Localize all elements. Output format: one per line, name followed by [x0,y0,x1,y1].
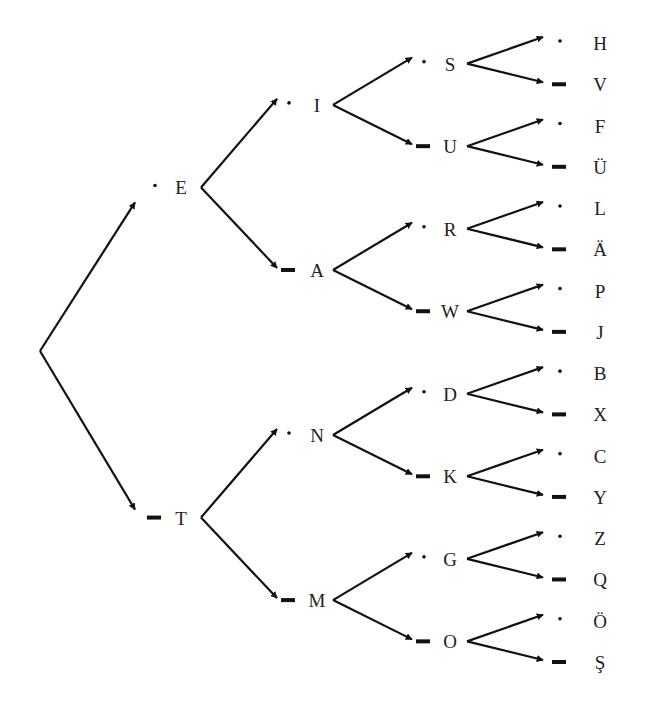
letter-label: J [596,322,603,343]
arrow-R-to-Ä [467,229,543,248]
letter-label: Q [593,569,607,590]
dash-mark [416,309,430,313]
node-o: O [416,631,457,652]
dash-mark [147,516,161,520]
node-n: N [287,425,324,446]
dot-mark [287,431,291,435]
letter-label: L [594,198,606,219]
node-h: H [558,33,607,54]
letter-label: C [594,446,607,467]
arrow-W-to-J [467,311,543,330]
node-b: B [558,363,606,384]
dot-mark [558,287,562,291]
node-p: P [558,281,605,302]
letter-label: Ä [593,239,607,260]
arrow-E-to-A [201,187,277,268]
letter-label: M [309,590,326,611]
dot-mark [558,369,562,373]
arrow-N-to-D [333,388,412,435]
letter-label: D [443,384,457,405]
node-w: W [416,301,459,322]
dash-mark [416,639,430,643]
dash-mark [552,165,566,169]
arrow-S-to-H [467,37,543,64]
arrow-U-to-F [467,120,543,147]
dash-mark [552,577,566,581]
arrow-root-to-T [40,351,135,510]
dash-mark [281,598,295,602]
dot-mark [422,555,426,559]
dot-mark [422,60,426,64]
letter-label: A [310,260,324,281]
arrow-D-to-B [467,367,543,394]
arrow-U-to-Ü [467,146,543,165]
node-v: V [552,74,607,95]
arrow-M-to-G [333,553,412,600]
dash-mark [552,412,566,416]
node-m: M [281,590,326,611]
node-i: I [287,95,320,116]
node-f: F [558,116,605,137]
arrow-A-to-R [333,223,412,270]
node-s-cedilla: Ş [552,652,605,673]
dash-mark [552,82,566,86]
arrow-K-to-Y [467,476,543,495]
node-l: L [558,198,606,219]
letter-label: N [310,425,324,446]
node-g: G [422,549,457,570]
node-u-umlaut: Ü [552,157,607,178]
arrow-O-to-Ö [467,615,543,642]
arrow-D-to-X [467,394,543,413]
node-q: Q [552,569,607,590]
letter-label: H [593,33,607,54]
node-x: X [552,404,607,425]
arrow-N-to-K [333,435,412,474]
letter-label: K [443,466,457,487]
dot-mark [558,617,562,621]
node-t: T [147,508,187,529]
node-e: E [153,177,187,198]
letter-label: W [441,301,459,322]
letter-label: Ö [593,611,607,632]
letter-label: O [443,631,457,652]
node-j: J [552,322,604,343]
arrow-A-to-W [333,270,412,309]
node-s: S [422,54,455,75]
arrow-G-to-Z [467,532,543,559]
arrow-O-to-Ş [467,641,543,660]
dot-mark [558,39,562,43]
arrow-root-to-E [40,202,135,351]
letter-label: B [594,363,607,384]
letter-label: X [593,404,607,425]
letter-label: U [443,136,457,157]
letter-label: F [595,116,606,137]
arrow-I-to-U [333,105,412,144]
dot-mark [558,452,562,456]
node-a: A [281,260,324,281]
dash-mark [552,330,566,334]
letter-label: G [443,549,457,570]
node-c: C [558,446,606,467]
letter-label: I [314,95,320,116]
letter-label: Ş [595,652,606,673]
dash-mark [281,268,295,272]
edges-layer [40,37,543,660]
node-k: K [416,466,457,487]
letter-label: S [445,54,456,75]
letter-label: Ü [593,157,607,178]
dot-mark [287,101,291,105]
dot-mark [422,225,426,229]
arrow-W-to-P [467,285,543,312]
node-a-umlaut: Ä [552,239,607,260]
node-u: U [416,136,457,157]
arrow-I-to-S [333,58,412,105]
node-r: R [422,219,456,240]
dash-mark [416,474,430,478]
dash-mark [552,247,566,251]
arrow-K-to-C [467,450,543,477]
letter-label: P [595,281,606,302]
node-d: D [422,384,457,405]
dot-mark [558,122,562,126]
letter-label: Z [594,528,606,549]
arrow-E-to-I [201,99,277,188]
